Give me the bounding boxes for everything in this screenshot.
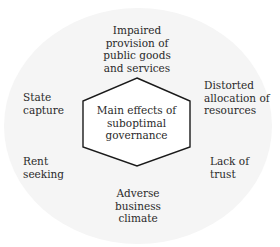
- center-label: Main effects of suboptimal governance: [83, 104, 190, 142]
- effect-lack-of-trust: Lack of trust: [210, 155, 270, 180]
- effect-state-capture: State capture: [23, 91, 73, 116]
- effect-adverse-business-climate: Adverse business climate: [110, 187, 166, 225]
- effect-rent-seeking: Rent seeking: [23, 155, 73, 180]
- diagram-canvas: Main effects of suboptimal governance Im…: [0, 0, 280, 247]
- effect-impaired-provision: Impaired provision of public goods and s…: [90, 24, 184, 74]
- effect-distorted-allocation: Distorted allocation of resources: [204, 79, 280, 117]
